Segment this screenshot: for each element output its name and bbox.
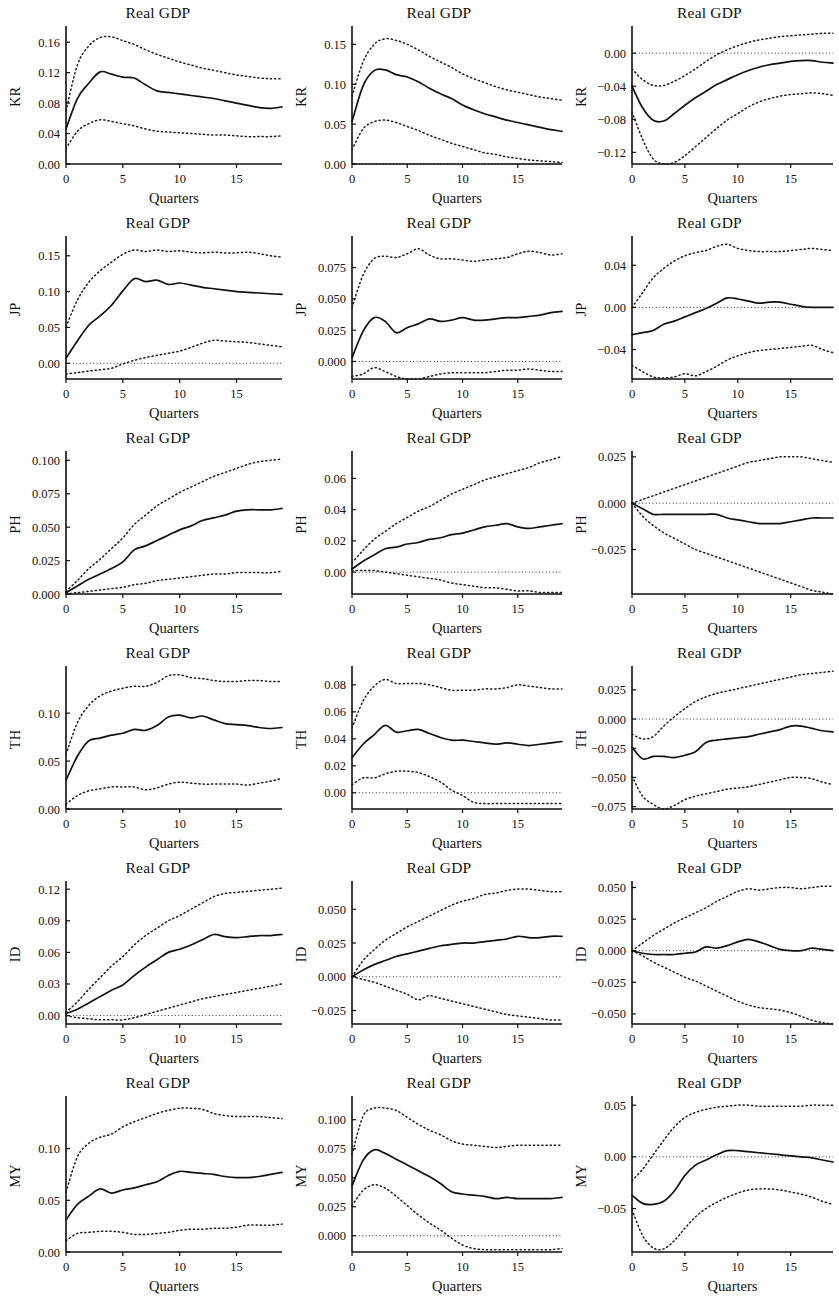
- y-tick-label: 0.025: [318, 937, 346, 951]
- confidence-band-line: [632, 951, 833, 1024]
- x-tick-label: 0: [349, 1032, 355, 1046]
- chart-panel-ID-c3: Real GDP−0.050−0.0250.0000.0250.05005101…: [570, 855, 839, 1070]
- x-tick-label: 15: [784, 1032, 797, 1046]
- x-tick-label: 10: [173, 172, 186, 186]
- plot-area: 0.0000.0250.0500.075051015QuartersJP: [290, 210, 570, 425]
- x-axis-label: Quarters: [432, 405, 482, 421]
- confidence-band-line: [352, 570, 562, 592]
- y-tick-label: 0.02: [324, 759, 346, 773]
- plot-area: −0.12−0.08−0.040.00051015QuartersKR: [570, 0, 839, 210]
- irf-chart-grid: Real GDP0.000.040.080.120.16051015Quarte…: [0, 0, 839, 1298]
- y-tick-label: 0.00: [38, 1246, 60, 1260]
- x-axis-label: Quarters: [432, 1050, 482, 1066]
- x-tick-label: 10: [732, 387, 745, 401]
- confidence-band-line: [352, 457, 562, 563]
- x-tick-label: 5: [404, 1032, 410, 1046]
- x-tick-label: 0: [63, 602, 69, 616]
- x-tick-label: 0: [629, 602, 635, 616]
- confidence-band-line: [632, 1189, 833, 1250]
- x-tick-label: 15: [230, 1260, 243, 1274]
- x-tick-label: 15: [512, 817, 525, 831]
- y-tick-label: 0.050: [318, 1171, 346, 1185]
- confidence-band-line: [66, 459, 282, 591]
- y-tick-label: 0.15: [324, 38, 346, 52]
- chart-panel-MY-c1: Real GDP0.000.050.10051015QuartersMY: [0, 1070, 290, 1298]
- point-estimate-line: [352, 69, 562, 131]
- x-axis-label: Quarters: [149, 190, 199, 206]
- point-estimate-line: [632, 726, 833, 759]
- y-tick-label: −0.050: [591, 771, 626, 785]
- x-axis-label: Quarters: [432, 620, 482, 636]
- x-tick-label: 10: [732, 602, 745, 616]
- plot-area: 0.000.040.080.120.16051015QuartersKR: [0, 0, 290, 210]
- y-tick-label: 0.000: [598, 944, 626, 958]
- y-axis-label: KR: [7, 87, 23, 107]
- x-tick-label: 5: [682, 1032, 688, 1046]
- y-tick-label: 0.04: [38, 127, 61, 141]
- x-tick-label: 10: [173, 817, 186, 831]
- chart-panel-KR-c1: Real GDP0.000.040.080.120.16051015Quarte…: [0, 0, 290, 210]
- plot-area: 0.000.020.040.06051015QuartersPH: [290, 425, 570, 640]
- y-tick-label: −0.025: [591, 543, 626, 557]
- chart-panel-JP-c2: Real GDP0.0000.0250.0500.075051015Quarte…: [290, 210, 570, 425]
- x-tick-label: 15: [784, 602, 797, 616]
- plot-area: 0.0000.0250.0500.0750.100051015QuartersP…: [0, 425, 290, 640]
- y-tick-label: 0.08: [38, 97, 60, 111]
- confidence-band-line: [66, 340, 282, 374]
- y-tick-label: 0.00: [604, 47, 626, 61]
- chart-title: Real GDP: [290, 429, 570, 447]
- y-tick-label: 0.075: [32, 487, 60, 501]
- y-tick-label: 0.10: [324, 78, 346, 92]
- x-tick-label: 10: [173, 602, 186, 616]
- confidence-band-line: [632, 93, 833, 164]
- x-tick-label: 15: [512, 1260, 525, 1274]
- chart-title: Real GDP: [570, 644, 839, 662]
- y-axis-label: KR: [573, 87, 589, 107]
- y-axis-label: MY: [573, 1164, 589, 1188]
- plot-area: 0.000.020.040.060.08051015QuartersTH: [290, 640, 570, 855]
- y-axis-label: PH: [573, 515, 589, 534]
- y-axis-label: JP: [573, 303, 589, 317]
- chart-title: Real GDP: [290, 4, 570, 22]
- y-tick-label: 0.00: [38, 803, 60, 817]
- point-estimate-line: [352, 311, 562, 357]
- y-axis-label: ID: [7, 947, 23, 962]
- y-tick-label: 0.05: [38, 1194, 60, 1208]
- confidence-band-line: [66, 120, 282, 149]
- y-tick-label: −0.04: [597, 343, 627, 357]
- y-tick-label: 0.100: [318, 1113, 346, 1127]
- confidence-band-line: [352, 249, 562, 308]
- x-axis-label: Quarters: [432, 1278, 482, 1294]
- point-estimate-line: [632, 298, 833, 335]
- y-axis-label: KR: [293, 87, 309, 107]
- chart-panel-MY-c3: Real GDP−0.050.000.05051015QuartersMY: [570, 1070, 839, 1298]
- x-tick-label: 15: [230, 602, 243, 616]
- point-estimate-line: [66, 508, 282, 592]
- confidence-band-line: [632, 1105, 833, 1181]
- x-axis-label: Quarters: [149, 620, 199, 636]
- y-tick-label: 0.06: [324, 472, 346, 486]
- x-tick-label: 10: [456, 1260, 469, 1274]
- y-tick-label: 0.05: [38, 321, 60, 335]
- y-tick-label: 0.12: [38, 66, 60, 80]
- chart-panel-PH-c3: Real GDP−0.0250.0000.025051015QuartersPH: [570, 425, 839, 640]
- x-tick-label: 0: [63, 172, 69, 186]
- chart-title: Real GDP: [290, 1074, 570, 1092]
- y-tick-label: −0.075: [591, 800, 626, 814]
- chart-title: Real GDP: [570, 429, 839, 447]
- confidence-band-line: [632, 457, 833, 503]
- x-tick-label: 5: [404, 387, 410, 401]
- y-tick-label: 0.09: [38, 914, 60, 928]
- x-axis-label: Quarters: [149, 1050, 199, 1066]
- y-tick-label: 0.000: [318, 355, 346, 369]
- x-tick-label: 10: [456, 817, 469, 831]
- y-tick-label: −0.04: [597, 80, 627, 94]
- x-tick-label: 5: [404, 817, 410, 831]
- x-tick-label: 5: [682, 172, 688, 186]
- point-estimate-line: [66, 715, 282, 780]
- x-tick-label: 15: [230, 387, 243, 401]
- x-tick-label: 0: [629, 1032, 635, 1046]
- chart-panel-ID-c2: Real GDP−0.0250.0000.0250.050051015Quart…: [290, 855, 570, 1070]
- y-tick-label: −0.025: [591, 742, 626, 756]
- y-tick-label: 0.025: [598, 913, 626, 927]
